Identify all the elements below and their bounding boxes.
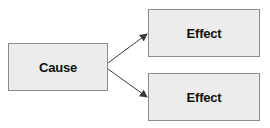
effect-node-top: Effect	[148, 9, 260, 57]
cause-label: Cause	[39, 60, 77, 75]
effect-label-top: Effect	[187, 26, 222, 41]
effect-label-bottom: Effect	[187, 90, 222, 105]
arrow-cause-to-effect-bottom	[108, 69, 147, 97]
effect-node-bottom: Effect	[148, 73, 260, 121]
cause-node: Cause	[8, 43, 108, 91]
arrow-cause-to-effect-top	[108, 34, 147, 63]
